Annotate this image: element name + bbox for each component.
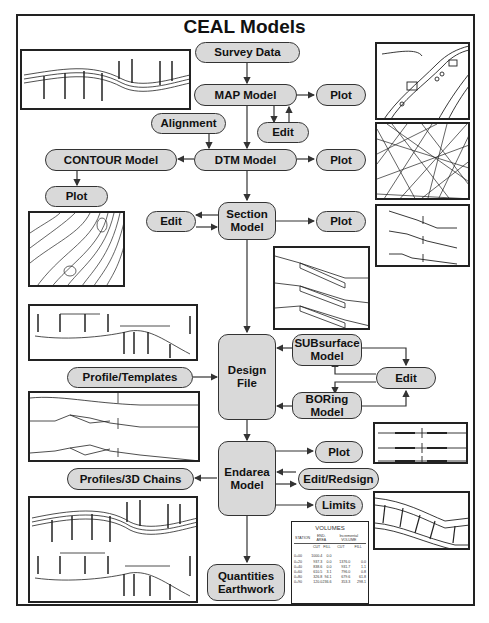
node-contour-model[interactable]: CONTOUR Model bbox=[45, 149, 177, 171]
volumes-table-cell: 326.8 bbox=[311, 575, 322, 580]
node-section-model[interactable]: Section Model bbox=[218, 202, 276, 240]
node-profile-templates[interactable]: Profile/Templates bbox=[67, 367, 193, 388]
volumes-table-row: 0+90120.0236.6353.3298.1 bbox=[294, 580, 366, 585]
node-endarea-model[interactable]: Endarea Model bbox=[218, 441, 276, 516]
volumes-table-row: 0+001000.40.0 bbox=[294, 550, 366, 559]
thumb-road-plan bbox=[20, 49, 191, 110]
tin-mesh-drawing bbox=[377, 124, 470, 200]
volumes-table-cell: 838.6 bbox=[311, 564, 322, 569]
volumes-table-cell: 0.0 bbox=[322, 550, 331, 559]
thumb-endarea-sections bbox=[373, 422, 468, 464]
thumb-contour-map bbox=[28, 211, 125, 287]
thumb-3d-sections bbox=[273, 246, 370, 330]
volumes-group-header-row: STATION END-AREA Incremental VOLUME bbox=[294, 533, 366, 544]
endarea-sections-drawing bbox=[375, 424, 468, 464]
volumes-table-cell: 120.0 bbox=[311, 580, 322, 585]
node-limits[interactable]: Limits bbox=[315, 495, 363, 516]
node-contour-plot[interactable]: Plot bbox=[45, 186, 108, 207]
contour-map-drawing bbox=[30, 213, 125, 287]
volumes-table: STATION END-AREA Incremental VOLUME CUT … bbox=[294, 533, 366, 585]
thumb-map-plot bbox=[375, 42, 470, 120]
volumes-header-incremental: Incremental VOLUME bbox=[332, 533, 366, 544]
volumes-table-title: VOLUMES bbox=[292, 525, 368, 531]
volumes-table-cell: 0+00 bbox=[294, 550, 311, 559]
road-plan-drawing bbox=[22, 51, 191, 110]
volumes-table-panel: VOLUMES STATION END-AREA Incremental VOL… bbox=[291, 521, 369, 604]
volumes-table-cell: 937.3 bbox=[311, 559, 322, 564]
3d-sections-drawing bbox=[275, 248, 370, 330]
node-dtm-model[interactable]: DTM Model bbox=[194, 149, 297, 171]
node-map-edit[interactable]: Edit bbox=[257, 122, 309, 143]
node-boring-model[interactable]: BORing Model bbox=[292, 392, 362, 419]
node-endarea-plot[interactable]: Plot bbox=[315, 441, 363, 463]
node-map-model[interactable]: MAP Model bbox=[194, 84, 297, 106]
node-design-file[interactable]: Design File bbox=[218, 334, 276, 420]
volumes-table-cell: 353.3 bbox=[332, 580, 351, 585]
section-lines-drawing bbox=[377, 206, 470, 267]
node-profiles-3d-chains[interactable]: Profiles/3D Chains bbox=[67, 468, 194, 490]
volumes-table-cell: 610.5 bbox=[311, 569, 322, 574]
volumes-table-cell bbox=[350, 550, 366, 559]
node-edit-redesign[interactable]: Edit/Redsign bbox=[298, 468, 379, 490]
thumb-profile-labels bbox=[28, 304, 198, 361]
volumes-header-endarea: END-AREA bbox=[311, 533, 332, 544]
thumb-section-lines bbox=[375, 204, 470, 267]
plan-profile-drawing bbox=[30, 498, 198, 603]
limits-ribbon-drawing bbox=[375, 493, 470, 550]
node-survey-data[interactable]: Survey Data bbox=[195, 42, 300, 63]
node-quantities-earthwork[interactable]: Quantities Earthwork bbox=[207, 564, 285, 601]
map-plot-drawing bbox=[377, 44, 470, 120]
node-map-plot[interactable]: Plot bbox=[316, 84, 366, 106]
volumes-header-station: STATION bbox=[294, 533, 311, 544]
node-subsurface-model[interactable]: SUBsurface Model bbox=[292, 334, 362, 366]
node-dtm-plot[interactable]: Plot bbox=[316, 149, 366, 171]
node-sub-edit[interactable]: Edit bbox=[376, 367, 436, 389]
volumes-table-body: 0+001000.40.00+20937.30.01376.00.00+4083… bbox=[294, 550, 366, 585]
profile-labels-drawing bbox=[30, 306, 198, 361]
node-alignment[interactable]: Alignment bbox=[151, 113, 226, 134]
volumes-table-cell: 298.1 bbox=[350, 580, 366, 585]
thumb-cross-sections bbox=[28, 391, 200, 462]
volumes-table-cell: 0+90 bbox=[294, 580, 311, 585]
volumes-table-cell: 236.6 bbox=[322, 580, 331, 585]
node-section-plot[interactable]: Plot bbox=[316, 211, 366, 232]
volumes-table-cell: 1000.4 bbox=[311, 550, 322, 559]
thumb-limits-ribbon bbox=[373, 491, 470, 550]
thumb-plan-profile bbox=[28, 496, 198, 603]
thumb-tin-mesh bbox=[375, 122, 470, 200]
arrow-boring-to-edit bbox=[362, 391, 406, 406]
arrow-sub-to-edit bbox=[362, 348, 406, 365]
volumes-table-cell bbox=[332, 550, 351, 559]
cross-sections-drawing bbox=[30, 393, 200, 462]
node-section-edit[interactable]: Edit bbox=[146, 211, 196, 232]
